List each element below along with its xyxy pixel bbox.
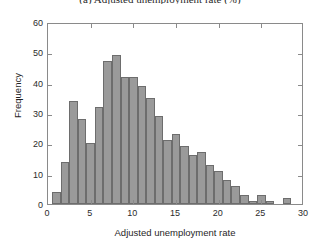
- figure-caption: (a) Adjusted unemployment rate (%): [0, 0, 320, 4]
- histogram-bar: [266, 201, 275, 204]
- x-tick-label: 30: [298, 208, 308, 218]
- x-tick-mark: [133, 200, 134, 204]
- y-axis-label: Frequency: [12, 56, 23, 136]
- x-tick-label: 0: [44, 208, 49, 218]
- y-tick-mark: [298, 115, 302, 116]
- y-tick-mark: [48, 145, 52, 146]
- histogram-bar: [78, 119, 87, 204]
- y-tick-mark: [48, 85, 52, 86]
- histogram-bar: [155, 116, 164, 204]
- y-tick-label: 30: [21, 109, 43, 119]
- y-tick-mark: [48, 176, 52, 177]
- x-axis-label: Adjusted unemployment rate: [47, 227, 303, 238]
- histogram-figure: (a) Adjusted unemployment rate (%) 05101…: [0, 0, 320, 248]
- y-tick-mark: [298, 54, 302, 55]
- histogram-bar: [129, 77, 138, 204]
- histogram-bar: [86, 143, 95, 204]
- x-tick-mark: [91, 24, 92, 28]
- x-tick-mark: [133, 24, 134, 28]
- histogram-bar: [146, 98, 155, 204]
- histogram-bar: [180, 146, 189, 204]
- y-tick-label: 60: [21, 18, 43, 28]
- x-tick-label: 20: [213, 208, 223, 218]
- x-tick-mark: [219, 24, 220, 28]
- y-tick-label: 20: [21, 139, 43, 149]
- y-tick-mark: [298, 85, 302, 86]
- histogram-bar: [172, 134, 181, 204]
- histogram-bar: [61, 162, 70, 204]
- x-tick-mark: [176, 200, 177, 204]
- histogram-bar: [138, 86, 147, 204]
- x-tick-mark: [219, 200, 220, 204]
- x-tick-mark: [91, 200, 92, 204]
- histogram-bar: [197, 152, 206, 204]
- y-tick-mark: [298, 145, 302, 146]
- y-tick-label: 10: [21, 170, 43, 180]
- x-tick-label: 5: [87, 208, 92, 218]
- histogram-bar: [69, 101, 78, 204]
- histogram-bar: [214, 171, 223, 204]
- y-tick-mark: [48, 115, 52, 116]
- histogram-bar: [240, 195, 249, 204]
- histogram-bar: [206, 165, 215, 204]
- histogram-bars: [48, 24, 302, 204]
- x-tick-mark: [261, 200, 262, 204]
- histogram-bar: [103, 61, 112, 204]
- histogram-bar: [95, 107, 104, 204]
- y-tick-label: 40: [21, 79, 43, 89]
- histogram-bar: [223, 180, 232, 204]
- x-tick-mark: [176, 24, 177, 28]
- histogram-bar: [112, 55, 121, 204]
- histogram-bar: [249, 201, 258, 204]
- y-tick-label: 0: [21, 200, 43, 210]
- histogram-bar: [52, 192, 61, 204]
- x-tick-mark: [261, 24, 262, 28]
- histogram-bar: [121, 77, 130, 204]
- x-tick-label: 15: [170, 208, 180, 218]
- histogram-bar: [283, 198, 292, 204]
- y-tick-mark: [298, 176, 302, 177]
- histogram-bar: [231, 186, 240, 204]
- y-tick-mark: [48, 54, 52, 55]
- y-tick-label: 50: [21, 48, 43, 58]
- x-tick-label: 10: [127, 208, 137, 218]
- histogram-bar: [189, 155, 198, 204]
- x-tick-label: 25: [255, 208, 265, 218]
- plot-area: [47, 23, 303, 205]
- histogram-bar: [163, 140, 172, 204]
